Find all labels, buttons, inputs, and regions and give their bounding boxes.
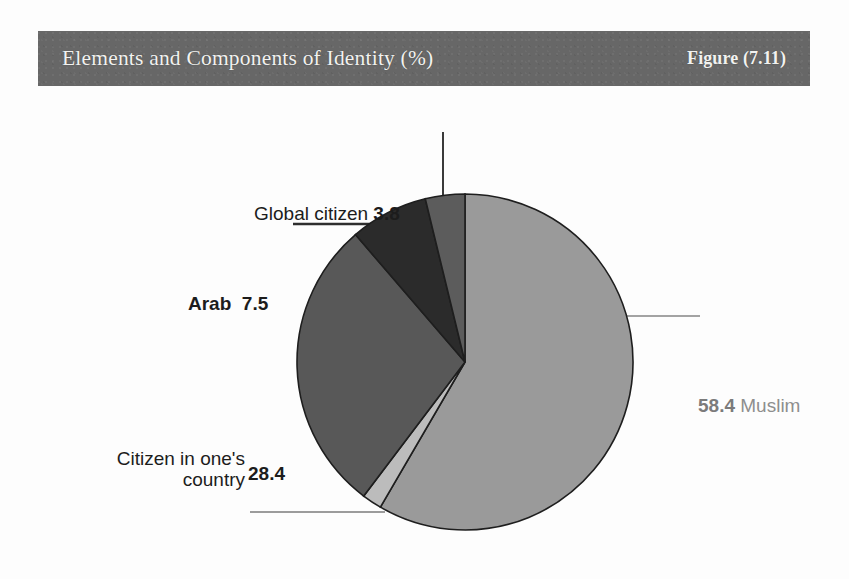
page-title: Elements and Components of Identity (%) xyxy=(62,46,433,71)
figure-number-label: Figure (7.11) xyxy=(687,48,786,69)
slice-label-arab-text: Arab xyxy=(188,293,231,314)
pie-slices-group xyxy=(297,194,633,530)
slice-value-citizen-country: 28.4 xyxy=(248,463,285,485)
pie-chart-area: Global citizen 3.8 Arab 7.5 Citizen in o… xyxy=(0,86,849,579)
slice-label-citizen-country: Citizen in one's country xyxy=(40,449,245,490)
slice-label-citizen-country-line1: Citizen in one's xyxy=(117,448,245,469)
figure-header-banner: Elements and Components of Identity (%) … xyxy=(38,31,810,86)
pie-chart-svg xyxy=(0,86,849,579)
slice-value-muslim: 58.4 xyxy=(698,395,735,416)
slice-label-muslim-text: Muslim xyxy=(740,395,800,416)
slice-value-arab: 7.5 xyxy=(242,293,268,314)
slice-label-arab: Arab 7.5 xyxy=(188,294,268,315)
slice-label-muslim: 58.4 Muslim xyxy=(698,396,800,417)
slice-label-global-citizen-text: Global citizen xyxy=(254,203,368,224)
slice-label-global-citizen: Global citizen 3.8 xyxy=(254,204,400,225)
slice-value-global-citizen: 3.8 xyxy=(373,203,399,224)
slice-label-citizen-country-line2: country xyxy=(183,469,245,490)
